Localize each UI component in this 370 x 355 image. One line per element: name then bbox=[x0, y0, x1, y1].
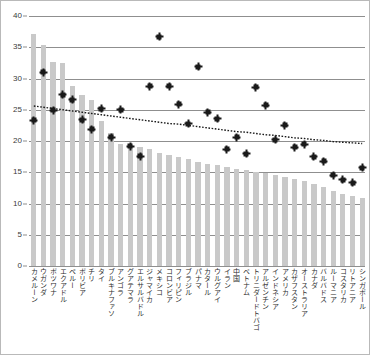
scatter-point bbox=[51, 108, 56, 113]
scatter-point bbox=[186, 121, 191, 126]
plot-area bbox=[29, 16, 365, 266]
scatter-point bbox=[360, 165, 365, 170]
scatter-point bbox=[80, 117, 85, 122]
scatter-point bbox=[263, 103, 268, 108]
x-tick-label: ボツワナ bbox=[49, 268, 56, 296]
x-tick-label: コスタリカ bbox=[339, 268, 346, 303]
x-tick-label: カメルーン bbox=[30, 268, 37, 303]
scatter-point bbox=[321, 159, 326, 164]
y-tick-label: 15 bbox=[13, 168, 22, 176]
y-tick-mark bbox=[23, 234, 27, 235]
scatter-point bbox=[31, 118, 36, 123]
y-tick-mark bbox=[23, 266, 27, 267]
y-tick-mark bbox=[23, 172, 27, 173]
scatter-point bbox=[205, 110, 210, 115]
x-tick-label: エルサルバドル bbox=[136, 268, 143, 317]
x-tick-label: コロンビア bbox=[165, 268, 172, 303]
x-tick-label: カタール bbox=[204, 268, 211, 296]
x-tick-label: フィリピン bbox=[175, 268, 182, 303]
x-tick-label: オーストラリア bbox=[301, 268, 308, 317]
y-tick-mark bbox=[23, 203, 27, 204]
x-tick-label: ウルグアイ bbox=[214, 268, 221, 303]
scatter-point bbox=[41, 70, 46, 75]
scatter-point bbox=[311, 154, 316, 159]
scatter-point bbox=[60, 92, 65, 97]
scatter-point bbox=[196, 64, 201, 69]
x-tick-label: シンガポール bbox=[358, 268, 365, 310]
scatter-point bbox=[215, 116, 220, 121]
x-tick-label: トリニダードトバゴ bbox=[252, 268, 259, 331]
x-tick-label: イラン bbox=[223, 268, 230, 289]
scatter-point bbox=[138, 154, 143, 159]
scatter-point bbox=[70, 97, 75, 102]
y-tick-label: 30 bbox=[13, 75, 22, 83]
x-tick-label: ルーマニア bbox=[329, 268, 336, 303]
x-tick-label: インドネシア bbox=[272, 268, 279, 310]
y-tick-label: 5 bbox=[18, 231, 22, 239]
x-tick-label: パナマ bbox=[194, 268, 201, 289]
scatter-point bbox=[331, 173, 336, 178]
x-tick-label: ベトナム bbox=[243, 268, 250, 296]
y-tick-label: 25 bbox=[13, 106, 22, 114]
scatter-point bbox=[99, 106, 104, 111]
x-tick-label: チリ bbox=[88, 268, 95, 282]
x-tick-label: ウガンダ bbox=[40, 268, 47, 296]
scatter-point bbox=[109, 135, 114, 140]
y-tick-label: 0 bbox=[18, 262, 22, 270]
scatter-point bbox=[253, 85, 258, 90]
scatter-point bbox=[340, 177, 345, 182]
scatter-point bbox=[157, 34, 162, 39]
chart-container: 0510152025303540 カメルーンウガンダボツワナエクアドルペルーボリ… bbox=[0, 0, 370, 355]
x-tick-label: リトアニア bbox=[349, 268, 356, 303]
x-tick-label: タイ bbox=[98, 268, 105, 282]
x-tick-label: アルゼンチン bbox=[262, 268, 269, 310]
y-tick-mark bbox=[23, 109, 27, 110]
x-tick-label: アンゴラ bbox=[117, 268, 124, 296]
x-axis-labels: カメルーンウガンダボツワナエクアドルペルーボリビアチリタイブルキナファソアンゴラ… bbox=[29, 268, 365, 352]
x-tick-label: ジャマイカ bbox=[146, 268, 153, 303]
scatter-point bbox=[167, 84, 172, 89]
x-tick-label: メキシコ bbox=[156, 268, 163, 296]
scatter-point bbox=[302, 142, 307, 147]
x-tick-label: ボリビア bbox=[78, 268, 85, 296]
scatter-point bbox=[176, 102, 181, 107]
y-tick-label: 35 bbox=[13, 43, 22, 51]
y-tick-label: 40 bbox=[13, 12, 22, 20]
scatter-point bbox=[350, 180, 355, 185]
scatter-point bbox=[273, 137, 278, 142]
x-tick-label: バルバドス bbox=[320, 268, 327, 303]
x-tick-label: アメリカ bbox=[281, 268, 288, 296]
scatter-point bbox=[234, 135, 239, 140]
y-tick-mark bbox=[23, 47, 27, 48]
y-tick-label: 10 bbox=[13, 200, 22, 208]
scatter-point bbox=[224, 147, 229, 152]
x-tick-label: エクアドル bbox=[59, 268, 66, 303]
scatter-point bbox=[118, 107, 123, 112]
y-tick-mark bbox=[23, 16, 27, 17]
x-tick-label: ブルキナファソ bbox=[107, 268, 114, 317]
scatter-point bbox=[292, 145, 297, 150]
x-tick-label: カザフスタン bbox=[291, 268, 298, 310]
x-tick-label: カナダ bbox=[310, 268, 317, 289]
y-axis: 0510152025303540 bbox=[1, 16, 27, 266]
x-tick-label: グアテマラ bbox=[127, 268, 134, 303]
x-tick-label: ブラジル bbox=[185, 268, 192, 296]
scatter-point bbox=[147, 84, 152, 89]
scatter-point bbox=[128, 144, 133, 149]
x-axis-line bbox=[29, 266, 365, 267]
y-tick-mark bbox=[23, 78, 27, 79]
scatter-point bbox=[89, 127, 94, 132]
y-tick-label: 20 bbox=[13, 137, 22, 145]
scatter-point bbox=[282, 123, 287, 128]
y-tick-mark bbox=[23, 141, 27, 142]
x-tick-label: 中国 bbox=[233, 268, 240, 282]
scatter-series bbox=[29, 16, 365, 266]
scatter-point bbox=[244, 151, 249, 156]
x-tick-label: ペルー bbox=[69, 268, 76, 289]
